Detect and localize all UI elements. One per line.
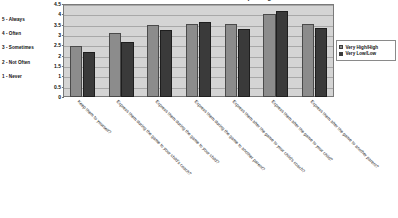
y-axis-tick-label: 3.5 — [54, 22, 61, 28]
legend-swatch-icon — [339, 52, 343, 56]
bar — [121, 42, 133, 97]
chart-legend: Very High/HighVery Low/Low — [336, 40, 396, 61]
legend-item: Very High/High — [339, 45, 393, 50]
x-axis-label: Express them after the game to another p… — [309, 99, 379, 169]
y-axis-tick-label: 1 — [58, 73, 61, 79]
legend-label: Very High/High — [346, 45, 379, 50]
bar — [160, 30, 172, 97]
x-axis-label: Express them during the game to your chi… — [154, 99, 220, 165]
y-axis: 00.511.522.533.544.5 — [44, 4, 62, 97]
bar — [199, 22, 211, 97]
y-axis-tick-label: 2.5 — [54, 42, 61, 48]
scale-key-item: 2 - Not Often — [2, 60, 44, 65]
legend-label: Very Low/Low — [346, 51, 377, 56]
y-axis-tick-label: 3 — [58, 32, 61, 38]
y-axis-tick-label: 0.5 — [54, 84, 61, 90]
bar — [276, 11, 288, 97]
x-axis-label: Express them after the game to your chil… — [232, 99, 307, 174]
bar — [238, 29, 250, 97]
bar — [186, 24, 198, 97]
bars-layer — [63, 4, 334, 97]
bar — [147, 25, 159, 97]
plot-wrapper — [63, 4, 334, 97]
chart-title: Parent Behaviour at Youth Sporting Event… — [100, 0, 350, 1]
scale-key-item: 3 - Sometimes — [2, 45, 44, 50]
scale-key-item: 5 - Always — [2, 17, 44, 22]
x-axis-labels: Keep them to yourself?Express them durin… — [63, 97, 334, 215]
scale-key-item: 1 - Never — [2, 74, 44, 79]
bar — [302, 24, 314, 97]
bar — [83, 52, 95, 97]
ordinal-scale-key: 5 - Always4 - Often3 - Sometimes2 - Not … — [2, 17, 44, 88]
y-axis-tick-label: 4.5 — [54, 1, 61, 7]
y-axis-tick-label: 4 — [58, 11, 61, 17]
bar-group — [218, 4, 257, 97]
x-axis-label: Express them during the game to your chi… — [116, 99, 193, 176]
bar — [109, 33, 121, 97]
bar — [225, 24, 237, 97]
legend-swatch-icon — [339, 45, 343, 49]
legend-item: Very Low/Low — [339, 51, 393, 56]
y-axis-tick-label: 1.5 — [54, 63, 61, 69]
bar-group — [295, 4, 334, 97]
bar — [263, 14, 275, 97]
y-axis-tick-label: 0 — [58, 94, 61, 100]
bar-group — [102, 4, 141, 97]
x-axis-label: Keep them to yourself? — [77, 99, 113, 135]
bar — [70, 46, 82, 97]
bar-chart: Parent Behaviour at Youth Sporting Event… — [0, 0, 398, 218]
bar — [315, 28, 327, 97]
bar-group — [179, 4, 218, 97]
scale-key-item: 4 - Often — [2, 31, 44, 36]
bar-group — [257, 4, 296, 97]
bar-group — [140, 4, 179, 97]
x-axis-label: Express them after the game to your chil… — [270, 99, 333, 162]
x-axis-label: Express them during the game to another … — [193, 99, 266, 172]
bar-group — [63, 4, 102, 97]
y-axis-tick-label: 2 — [58, 53, 61, 59]
